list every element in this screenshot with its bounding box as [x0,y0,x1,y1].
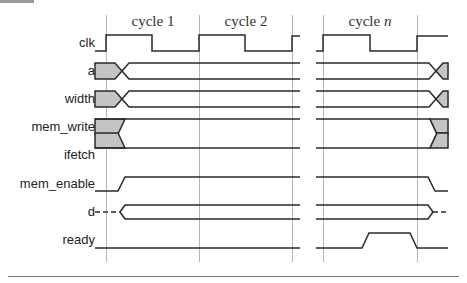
clk-waveform [95,35,448,51]
ready-waveform [95,233,448,248]
mem-enable-waveform [95,177,448,191]
ifetch-waveform [95,133,448,148]
width-waveform [95,91,448,107]
cycle-gridlines [107,15,418,262]
timing-diagram [0,0,467,283]
a-waveform [95,63,448,79]
bottom-rule [8,276,459,277]
d-waveform [95,205,448,219]
mem-write-waveform [95,119,448,134]
